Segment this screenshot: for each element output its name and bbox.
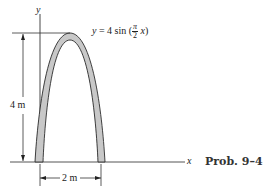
- height-dimension-label: 4 m: [10, 99, 25, 110]
- arrow-down-icon: [21, 155, 25, 161]
- arrow-up-icon: [21, 34, 25, 40]
- problem-caption: Prob. 9–4: [205, 155, 263, 168]
- arrow-right-icon: [95, 176, 101, 180]
- equation-label: y = 4 sin (π2 x): [92, 23, 148, 40]
- equation-eq: = 4 sin (: [99, 25, 132, 36]
- equation-close: ): [145, 25, 148, 36]
- parabolic-arch: [35, 33, 105, 162]
- width-dimension-label: 2 m: [62, 172, 77, 183]
- arrow-left-icon: [40, 176, 46, 180]
- fraction-denominator: 2: [132, 32, 138, 40]
- y-axis-label: y: [36, 4, 40, 15]
- equation-fraction: π2: [132, 23, 138, 40]
- x-axis-label: x: [187, 155, 191, 166]
- equation-lhs: y: [92, 25, 96, 36]
